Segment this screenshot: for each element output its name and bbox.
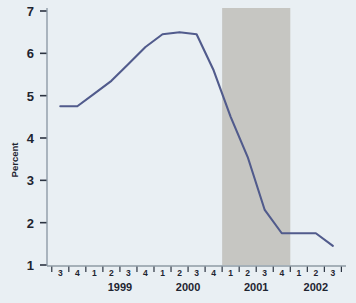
x-year-label: 2000: [176, 281, 200, 293]
x-quarter-label: 1: [160, 268, 165, 278]
chart-container: Percent 1234567 34123412341234123 199920…: [0, 0, 356, 303]
y-tick-label: 4: [27, 131, 35, 146]
y-tick-label: 3: [27, 173, 34, 188]
x-year-label: 2002: [304, 281, 328, 293]
x-year-label: 1999: [108, 281, 132, 293]
x-year-label: 2001: [244, 281, 268, 293]
y-tick-label: 7: [27, 4, 34, 19]
recession-shaded-band: [222, 8, 290, 265]
x-quarter-label: 3: [262, 268, 267, 278]
x-quarter-label: 4: [143, 268, 148, 278]
x-quarter-label: 3: [58, 268, 63, 278]
x-quarter-label: 1: [92, 268, 97, 278]
x-quarter-label: 4: [211, 268, 216, 278]
x-quarter-label: 4: [75, 268, 80, 278]
y-tick-label: 6: [27, 46, 34, 61]
x-quarter-label: 2: [109, 268, 114, 278]
x-quarter-label: 2: [313, 268, 318, 278]
x-quarter-label: 2: [177, 268, 182, 278]
chart-background: [0, 0, 356, 303]
line-chart: Percent 1234567 34123412341234123 199920…: [0, 0, 356, 303]
x-quarter-label: 4: [279, 268, 284, 278]
y-axis-title: Percent: [9, 142, 20, 178]
x-quarter-label: 3: [194, 268, 199, 278]
x-quarter-label: 3: [126, 268, 131, 278]
y-tick-label: 1: [27, 258, 34, 273]
x-quarter-label: 3: [331, 268, 336, 278]
y-tick-label: 2: [27, 216, 34, 231]
x-quarter-label: 2: [245, 268, 250, 278]
shaded-band-rect: [222, 8, 290, 265]
y-axis-title-group: Percent: [9, 142, 20, 178]
x-quarter-label: 1: [296, 268, 301, 278]
y-tick-label: 5: [27, 89, 34, 104]
x-quarter-label: 1: [228, 268, 233, 278]
